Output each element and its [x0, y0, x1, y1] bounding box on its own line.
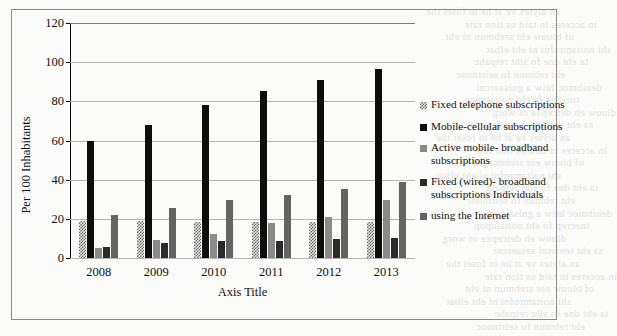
y-tick-label: 80 [52, 95, 65, 108]
y-axis-title: Per 100 Inhabitants [19, 116, 34, 213]
bar-2010-series-3 [218, 241, 225, 258]
legend-label-4: using the Internet [431, 209, 509, 222]
bar-2011-series-1 [260, 91, 267, 258]
legend-item-1: Mobile-cellular subscriptions [420, 120, 570, 133]
y-tick-label: 20 [52, 213, 65, 226]
bar-2011-series-2 [268, 223, 275, 258]
bar-2010-series-2 [210, 234, 217, 258]
bar-2013-series-2 [383, 200, 390, 258]
bar-2008-series-1 [87, 141, 94, 259]
bar-2013-series-0 [367, 222, 374, 258]
bar-2010-series-0 [194, 222, 201, 258]
y-tick-mark [66, 258, 70, 259]
bar-2012-series-4 [341, 189, 348, 258]
bar-2012-series-3 [333, 239, 340, 258]
x-tick-label-2013: 2013 [374, 265, 399, 280]
y-tick-mark [66, 101, 70, 102]
bar-2009-series-1 [145, 125, 152, 258]
y-tick-mark [66, 62, 70, 63]
bar-2013-series-1 [375, 69, 382, 258]
y-tick-mark [66, 23, 70, 24]
bar-2009-series-3 [161, 243, 168, 258]
bar-2012-series-0 [309, 222, 316, 258]
bar-2008-series-4 [111, 215, 118, 258]
bar-2011-series-3 [276, 241, 283, 258]
bar-2010-series-4 [226, 200, 233, 258]
bar-2009-series-4 [169, 208, 176, 258]
bar-2013-series-4 [399, 182, 406, 258]
legend-item-0: Fixed telephone subscriptions [420, 98, 570, 111]
y-tick-label: 120 [45, 17, 64, 30]
x-tick-label-2012: 2012 [316, 265, 341, 280]
x-tick-label-2011: 2011 [259, 265, 284, 280]
legend-item-2: Active mobile- broadband subscriptions [420, 141, 570, 166]
bar-2013-series-3 [391, 238, 398, 258]
bar-2011-series-0 [252, 222, 259, 258]
bar-2012-series-2 [325, 217, 332, 258]
y-tick-label: 100 [45, 56, 64, 69]
legend-swatch-icon-3 [420, 179, 427, 186]
gridline [70, 23, 415, 24]
gridline [70, 101, 415, 102]
gridline [70, 141, 415, 142]
x-tick-label-2009: 2009 [144, 265, 169, 280]
legend-swatch-icon-1 [420, 124, 427, 131]
bleedthrough-line: eht rebmun fo seirtnuoc [37, 321, 585, 332]
legend-label-3: Fixed (wired)- broadband subscriptions I… [431, 175, 570, 200]
legend-swatch-icon-0 [420, 102, 427, 109]
legend-label-1: Mobile-cellular subscriptions [431, 120, 562, 133]
x-tick-label-2010: 2010 [201, 265, 226, 280]
bar-2009-series-2 [153, 240, 160, 258]
bar-2011-series-4 [284, 195, 291, 258]
gridline [70, 62, 415, 63]
gridline [70, 219, 415, 220]
legend-label-0: Fixed telephone subscriptions [431, 98, 565, 111]
legend-label-2: Active mobile- broadband subscriptions [431, 141, 570, 166]
plot-area: 020406080100120200820092010201120122013 [70, 23, 415, 259]
y-tick-label: 40 [52, 173, 65, 186]
bar-2008-series-3 [103, 247, 110, 258]
bar-2012-series-1 [317, 80, 324, 258]
y-tick-mark [66, 180, 70, 181]
chart-legend: Fixed telephone subscriptionsMobile-cell… [420, 98, 570, 231]
gridline [70, 180, 415, 181]
bar-2010-series-1 [202, 105, 209, 258]
legend-swatch-icon-2 [420, 145, 427, 152]
bar-2008-series-2 [95, 248, 102, 258]
legend-item-3: Fixed (wired)- broadband subscriptions I… [420, 175, 570, 200]
y-tick-mark [66, 219, 70, 220]
gridline [70, 258, 415, 259]
x-axis-title: Axis Title [70, 285, 415, 300]
legend-item-4: using the Internet [420, 209, 570, 222]
y-tick-label: 60 [52, 134, 65, 147]
x-tick-label-2008: 2008 [86, 265, 111, 280]
bar-2008-series-0 [79, 221, 86, 258]
y-tick-label: 0 [58, 252, 64, 265]
bar-2009-series-0 [137, 221, 144, 258]
y-tick-mark [66, 141, 70, 142]
chart-frame: Per 100 Inhabitants 02040608010012020082… [11, 9, 557, 320]
legend-swatch-icon-4 [420, 213, 427, 220]
